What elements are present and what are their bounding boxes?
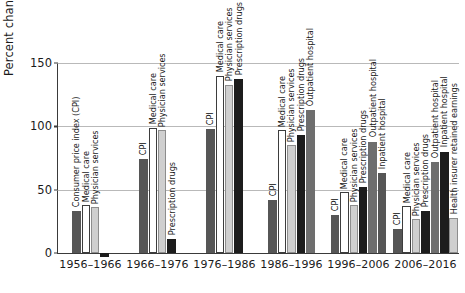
bar-label: Inpatient hospital — [440, 77, 448, 148]
bar-group: CPIMedical carePhysician servicesPrescri… — [258, 10, 325, 253]
x-tick-label: 1976–1986 — [191, 258, 258, 271]
bar-group: CPIMedical carePhysician servicesPrescri… — [392, 10, 459, 253]
bar-label: Medical care — [403, 152, 411, 203]
bar-label: Physician services — [287, 69, 295, 143]
bar-label: Physician services — [350, 128, 358, 202]
bar-label: Outpatient hospital — [368, 59, 376, 137]
bar-label: Outpatient hospital — [431, 80, 439, 158]
bar: Physician services — [158, 130, 167, 253]
bar-group: CPIMedical carePhysician servicesPrescri… — [191, 10, 258, 253]
bar-label: Medical care — [82, 151, 90, 202]
bar: Medical care — [340, 192, 349, 253]
bar-label: CPI — [139, 142, 147, 155]
y-tick-label-100: 100 — [30, 119, 52, 133]
bar-label: Outpatient hospital — [306, 28, 314, 106]
bar: CPI — [268, 200, 277, 253]
bar-label: Consumer price index (CPI) — [72, 97, 80, 208]
bar-label: Prescription drugs — [167, 162, 175, 235]
bar-label: Physician services — [91, 131, 99, 205]
bar: CPI — [139, 159, 148, 253]
bar: Physician services — [225, 85, 234, 253]
bar-label: CPI — [206, 112, 214, 125]
bar-label: Prescription drugs — [421, 134, 429, 207]
x-tick-label: 1956–1966 — [57, 258, 124, 271]
bar-label: Physician services — [158, 53, 166, 127]
bar: Consumer price index (CPI) — [72, 211, 81, 253]
bar: Inpatient hospital — [440, 152, 449, 253]
bar: Prescription drugs — [234, 79, 243, 253]
bar: CPI — [206, 129, 215, 253]
bar: Health insurer retained earnings — [449, 218, 458, 253]
bar-label: CPI — [393, 212, 401, 225]
bar: Prescription drugs — [359, 187, 368, 253]
bar: Medical care — [149, 128, 158, 253]
bar-label: Medical care — [216, 22, 224, 73]
bar: CPI — [331, 215, 340, 253]
bar-group: Consumer price index (CPI)Medical carePh… — [57, 10, 124, 253]
bar: Outpatient hospital — [431, 162, 440, 253]
bar: CPI — [393, 229, 402, 253]
bar-label: CPI — [269, 183, 277, 196]
bar: Medical care — [278, 130, 287, 253]
x-tick-label: 1996–2006 — [325, 258, 392, 271]
bar: Physician services — [412, 219, 421, 253]
bar: Inpatient hospital — [378, 173, 387, 253]
bar-group: CPIMedical carePhysician servicesPrescri… — [325, 10, 392, 253]
bar-label: Prescription drugs — [359, 110, 367, 183]
x-axis-baseline — [57, 253, 459, 254]
bar-label: Prescription drugs — [297, 58, 305, 131]
bar: Medical care — [216, 76, 225, 253]
bar: Medical care — [82, 205, 91, 253]
x-tick-label: 1966–1976 — [124, 258, 191, 271]
x-tick-label: 1986–1996 — [258, 258, 325, 271]
bar-label: CPI — [331, 198, 339, 211]
y-tick-label-150: 150 — [30, 56, 52, 70]
bar: Medical care — [402, 206, 411, 253]
y-axis-title: Percent change — [2, 0, 16, 76]
bar-group: CPIMedical carePhysician servicesPrescri… — [124, 10, 191, 253]
bar-label: Medical care — [149, 73, 157, 124]
bar: Outpatient hospital — [368, 142, 377, 253]
bar — [100, 253, 109, 257]
plot-area: 050100150Consumer price index (CPI)Medic… — [57, 10, 459, 253]
bar-label: Inpatient hospital — [378, 98, 386, 169]
bar-label: Physician services — [225, 8, 233, 82]
bar: Outpatient hospital — [306, 110, 315, 253]
bar: Physician services — [287, 145, 296, 253]
bar: Physician services — [91, 207, 100, 253]
y-tick-label-50: 50 — [37, 183, 52, 197]
bar: Prescription drugs — [297, 135, 306, 253]
bar-label: Health insurer retained earnings — [450, 83, 458, 214]
bar: Prescription drugs — [167, 239, 176, 253]
bar-chart: Percent change 050100150Consumer price i… — [0, 0, 465, 293]
bar: Prescription drugs — [421, 211, 430, 253]
x-tick-label: 2006–2016 — [392, 258, 459, 271]
bar-label: Prescription drugs — [234, 2, 242, 75]
bar: Physician services — [350, 205, 359, 253]
y-tick-label-0: 0 — [45, 246, 52, 260]
bar-label: Medical care — [340, 138, 348, 189]
